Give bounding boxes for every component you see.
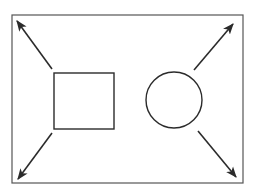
square-shape: [54, 73, 114, 129]
arrow-bottom-right-icon: [198, 131, 236, 177]
diagram-svg: [0, 0, 254, 195]
arrows-group: [17, 21, 236, 179]
arrow-top-left-icon: [17, 21, 52, 69]
arrow-top-right-icon: [194, 24, 233, 70]
circle-shape: [146, 72, 202, 128]
outer-frame: [12, 15, 243, 183]
diagram-canvas: [0, 0, 254, 195]
arrow-bottom-left-icon: [18, 133, 52, 179]
